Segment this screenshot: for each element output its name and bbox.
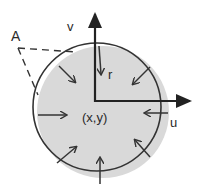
label-center-xy: (x,y) [82,111,107,124]
label-u: u [170,116,177,129]
diagram-drawing [0,0,200,192]
label-A: A [11,29,20,43]
label-v: v [67,20,74,33]
label-r: r [108,68,112,81]
snake-contour-diagram: A v r u (x,y) [0,0,200,192]
